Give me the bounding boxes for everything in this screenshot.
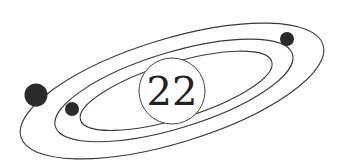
electron-small-left [65, 102, 79, 116]
atom-diagram: 22 [0, 0, 346, 168]
electron-large [25, 84, 48, 107]
nucleus-label: 22 [147, 68, 198, 114]
electron-top-right [280, 32, 294, 46]
